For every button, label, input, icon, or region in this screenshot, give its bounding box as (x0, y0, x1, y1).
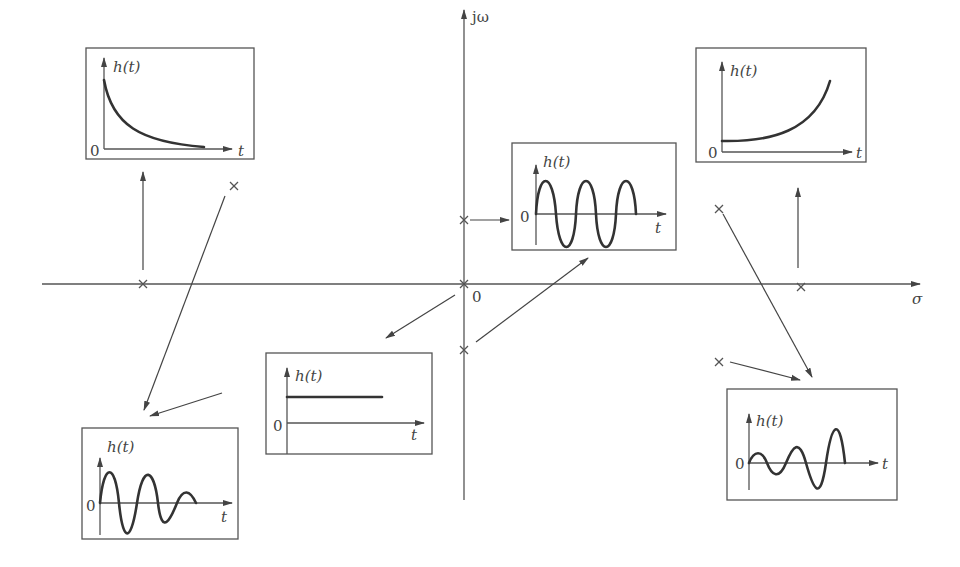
panel-sustained-oscillation: h(t) t 0 (512, 143, 676, 250)
arrow-icon (476, 258, 588, 342)
pole-icon (715, 205, 723, 213)
y-axis-label: h(t) (543, 153, 571, 171)
pole-icon (715, 358, 723, 366)
arrow-icon (723, 214, 812, 377)
arrow-icon (730, 362, 800, 380)
x-axis-label: t (882, 455, 889, 473)
panel-decaying-exponential: h(t) t 0 (86, 48, 254, 160)
zero-label: 0 (735, 455, 745, 473)
y-axis-label: h(t) (730, 62, 758, 80)
y-axis-label: h(t) (113, 58, 141, 76)
x-axis-label: t (856, 144, 863, 162)
arrow-icon (150, 393, 222, 416)
y-axis-label: h(t) (107, 438, 135, 456)
zero-label: 0 (708, 144, 718, 162)
x-axis-label: t (655, 219, 662, 237)
zero-label: 0 (86, 497, 96, 515)
sigma-label: σ (912, 290, 923, 308)
x-axis-label: t (411, 426, 418, 444)
x-axis-label: t (221, 508, 228, 526)
poles (139, 182, 805, 366)
panel-constant-step: h(t) t 0 (266, 353, 432, 454)
zero-label: 0 (520, 208, 530, 226)
arrow-icon (144, 196, 225, 410)
jomega-label: jω (470, 8, 489, 26)
pole-icon (230, 182, 238, 190)
origin-label: 0 (472, 288, 482, 306)
panel-growing-oscillation: h(t) t 0 (727, 389, 897, 500)
arrow-icon (386, 295, 455, 338)
zero-label: 0 (90, 142, 100, 160)
x-axis-label: t (238, 142, 245, 160)
y-axis-label: h(t) (295, 367, 323, 385)
s-plane-diagram: jω σ 0 h(t) t 0 (0, 0, 960, 567)
y-axis-label: h(t) (756, 412, 784, 430)
panel-damped-oscillation: h(t) t 0 (82, 428, 238, 539)
zero-label: 0 (273, 417, 283, 435)
panel-growing-exponential: h(t) t 0 (696, 48, 866, 162)
